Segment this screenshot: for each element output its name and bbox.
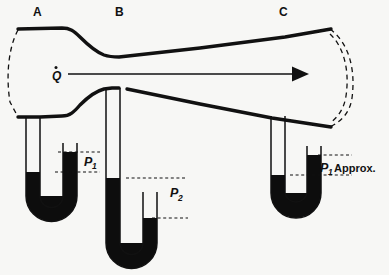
- figure-background: [0, 0, 389, 275]
- manometer-b-pressure-subscript: 2: [177, 193, 183, 203]
- station-label-a: A: [33, 5, 42, 19]
- manometer-c-pressure-subscript: 1: [328, 167, 333, 177]
- manometer-a-pressure-subscript: 1: [92, 161, 97, 171]
- station-label-b: B: [115, 5, 124, 19]
- manometer-c-approx-label: Approx.: [334, 162, 376, 174]
- flow-rate-label: Q: [52, 69, 62, 83]
- venturi-diagram-figure: Q A B C P 1: [0, 0, 389, 275]
- diagram-canvas: Q A B C P 1: [0, 0, 389, 275]
- station-label-c: C: [279, 5, 288, 19]
